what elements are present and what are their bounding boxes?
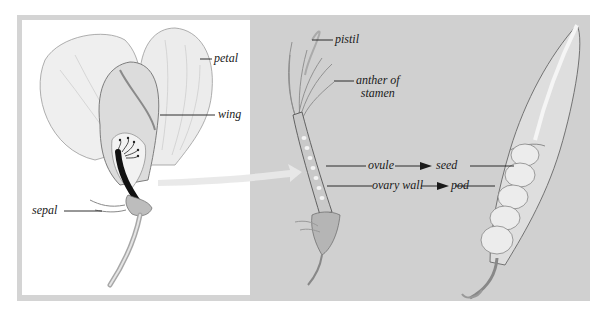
pistil-illustration (289, 31, 340, 285)
label-pod: pod (451, 179, 469, 192)
label-anther-line1: anther of (356, 73, 400, 87)
ovary-shape (293, 112, 332, 215)
label-anther-of-stamen: anther of stamen (356, 74, 400, 100)
label-seed: seed (436, 159, 457, 172)
label-anther-line2: stamen (361, 86, 395, 100)
arrow-ovary-to-pod (437, 182, 449, 190)
label-ovule: ovule (368, 159, 394, 172)
illustration (0, 0, 607, 317)
label-pistil: pistil (335, 33, 359, 46)
label-petal: petal (214, 52, 238, 65)
flower-illustration (40, 28, 212, 285)
pod-illustration (462, 25, 580, 298)
label-ovary-wall: ovary wall (372, 179, 423, 192)
label-wing: wing (218, 108, 241, 121)
arrow-ovule-to-seed (420, 162, 432, 170)
transition-arrow (158, 164, 302, 186)
label-sepal: sepal (32, 204, 57, 217)
